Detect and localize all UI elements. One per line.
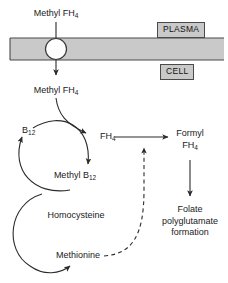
pathway-diagram: Methyl FH4 PLASMA CELL Methyl FH4 B12 Me…	[0, 0, 228, 283]
b12-label: B12	[22, 125, 35, 136]
methyl-fh4-plasma-subscript: 4	[75, 12, 79, 19]
formyl-fh4-line1: Formyl	[176, 128, 204, 140]
fh4-subscript: 4	[112, 135, 116, 142]
methyl-b12-text: Methyl B	[54, 170, 89, 180]
folate-line-2: polyglutamate	[147, 216, 228, 228]
methionine-label: Methionine	[56, 250, 100, 261]
folate-polyglutamate-label: Folate polyglutamate formation	[147, 204, 228, 239]
methyl-b12-label: Methyl B12	[54, 170, 96, 181]
methionine-feedback-arrow	[104, 148, 144, 256]
methyl-b12-to-b12-arc	[19, 137, 70, 191]
methyl-fh4-cell-text: Methyl FH	[34, 85, 75, 95]
transporter-circle	[46, 39, 67, 60]
b12-subscript: 12	[28, 129, 35, 136]
folate-line-3: formation	[147, 227, 228, 239]
formyl-fh4-line2: FH4	[176, 140, 204, 152]
homocysteine-label: Homocysteine	[47, 210, 104, 221]
methyl-fh4-cell-subscript: 4	[75, 89, 79, 96]
formyl-fh4-label: Formyl FH4	[176, 128, 204, 151]
methyl-fh4-cell-label: Methyl FH4	[34, 85, 79, 96]
methyl-fh4-plasma-label: Methyl FH4	[34, 8, 79, 19]
membrane-band	[10, 38, 224, 60]
folate-line-1: Folate	[147, 204, 228, 216]
methyl-fh4-to-fh4-arrow	[56, 98, 86, 133]
formyl-fh4-subscript: 4	[194, 144, 198, 151]
homocysteine-cycle-left-arc	[13, 194, 42, 266]
cell-label: CELL	[160, 64, 194, 80]
fh4-text: FH	[100, 131, 112, 141]
plasma-label: PLASMA	[157, 22, 205, 38]
homocysteine-to-methionine-arc	[30, 266, 70, 273]
formyl-fh4-text: FH	[182, 140, 194, 150]
methyl-b12-subscript: 12	[89, 174, 96, 181]
b12-methylation-arc	[33, 121, 88, 164]
fh4-label: FH4	[100, 131, 116, 142]
methyl-fh4-plasma-text: Methyl FH	[34, 8, 75, 18]
